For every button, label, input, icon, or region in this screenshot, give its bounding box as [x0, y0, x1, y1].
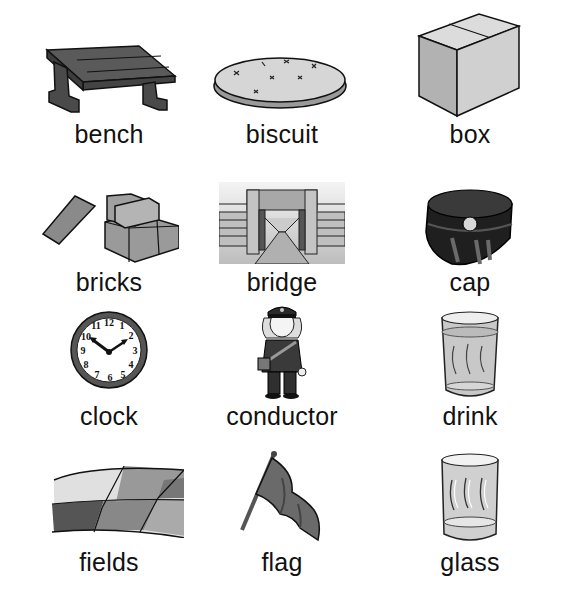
word-label: bridge: [188, 268, 376, 296]
svg-text:3: 3: [133, 345, 138, 356]
word-label: clock: [15, 402, 203, 430]
word-label: conductor: [188, 402, 376, 430]
bench-icon: [15, 38, 203, 118]
svg-text:12: 12: [104, 317, 114, 328]
svg-text:8: 8: [84, 359, 89, 370]
svg-text:4: 4: [129, 359, 134, 370]
svg-text:6: 6: [108, 372, 113, 383]
svg-text:7: 7: [95, 369, 100, 380]
cap-icon: [376, 188, 564, 268]
svg-text:1: 1: [120, 320, 125, 331]
fields-icon: [15, 458, 203, 538]
word-label: drink: [376, 402, 564, 430]
svg-text:2: 2: [129, 330, 134, 341]
biscuit-icon: [188, 52, 376, 112]
word-label: biscuit: [188, 120, 376, 148]
svg-text:5: 5: [121, 369, 126, 380]
word-label: fields: [15, 548, 203, 576]
bridge-icon: [188, 182, 376, 264]
svg-text:10: 10: [81, 331, 91, 342]
word-label: bench: [15, 120, 203, 148]
glass-icon: [376, 450, 564, 546]
clock-icon: 1212 345 678 91011: [15, 310, 203, 390]
word-label: flag: [188, 548, 376, 576]
word-label: box: [376, 120, 564, 148]
box-icon: [376, 8, 564, 118]
svg-text:9: 9: [81, 345, 86, 356]
word-label: bricks: [15, 268, 203, 296]
svg-text:11: 11: [91, 320, 100, 331]
flag-icon: [188, 448, 376, 544]
word-label: glass: [376, 548, 564, 576]
drink-icon: [376, 310, 564, 402]
bricks-icon: [15, 192, 203, 264]
conductor-icon: [188, 302, 376, 402]
word-label: cap: [376, 268, 564, 296]
